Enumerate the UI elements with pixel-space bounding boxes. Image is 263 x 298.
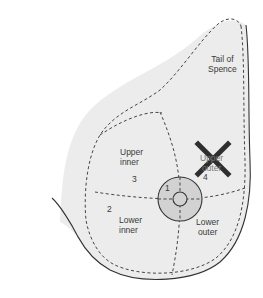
number-upper-outer: 4 [203,172,208,182]
label-upper-outer: Upper outer [200,153,223,173]
label-line: Spence [208,64,237,74]
label-line: outer [196,227,219,237]
label-line: Tail of [208,54,237,64]
label-line: Lower [119,215,142,225]
label-tail-of-spence: Tail of Spence [208,54,237,74]
number-areola: 1 [165,183,170,193]
label-line: inner [120,157,143,167]
label-line: Lower [196,217,219,227]
label-line: inner [119,225,142,235]
label-line: Upper [200,153,223,163]
label-line: Upper [120,147,143,157]
label-upper-inner: Upper inner [120,147,143,167]
number-upper-inner: 3 [132,174,137,184]
label-lower-inner: Lower inner [119,215,142,235]
number-lower-inner: 2 [107,204,112,214]
label-lower-outer: Lower outer [196,217,219,237]
nipple [173,192,187,206]
breast-quadrant-diagram: Tail of Spence Upper inner Upper outer L… [0,0,263,298]
